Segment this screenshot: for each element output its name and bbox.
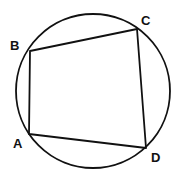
diagram-canvas: A B C D <box>0 0 178 172</box>
vertex-label-c: C <box>141 13 151 28</box>
vertex-label-b: B <box>10 38 19 53</box>
vertex-label-d: D <box>151 150 160 165</box>
diagram-svg: A B C D <box>0 0 178 172</box>
circumscribed-circle <box>16 14 170 168</box>
quadrilateral-abcd <box>29 29 146 148</box>
vertex-label-a: A <box>13 136 23 151</box>
